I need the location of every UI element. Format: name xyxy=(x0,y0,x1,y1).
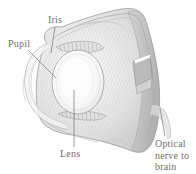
label-pupil: Pupil xyxy=(8,38,30,49)
pupil-aperture xyxy=(59,57,93,103)
label-lens: Lens xyxy=(60,148,80,159)
label-optic-nerve-line1: Optical xyxy=(155,138,195,150)
lens-group xyxy=(52,50,104,114)
label-optic-nerve: Optical nerve to brain xyxy=(155,138,195,173)
label-optic-nerve-line3: brain xyxy=(155,161,195,173)
eye-anatomy-figure: Iris Pupil Lens Optical nerve to brain xyxy=(0,0,196,174)
label-optic-nerve-line2: nerve to xyxy=(155,150,195,162)
label-iris: Iris xyxy=(48,14,62,25)
